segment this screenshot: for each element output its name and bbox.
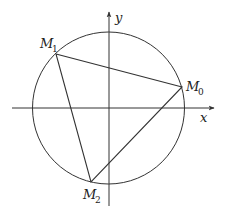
m2-subscript: 2 [95, 195, 101, 205]
label-m1: M 1 [39, 36, 58, 54]
inscribed-triangle [56, 54, 182, 182]
m1-subscript: 1 [52, 44, 58, 54]
y-axis-label: y [114, 10, 123, 25]
label-m0: M 0 [185, 79, 204, 97]
label-m2: M 2 [82, 187, 101, 205]
m0-subscript: 0 [198, 87, 204, 97]
diagram-canvas: x y M 0 M 1 M 2 [0, 0, 225, 214]
x-axis-label: x [200, 110, 208, 125]
